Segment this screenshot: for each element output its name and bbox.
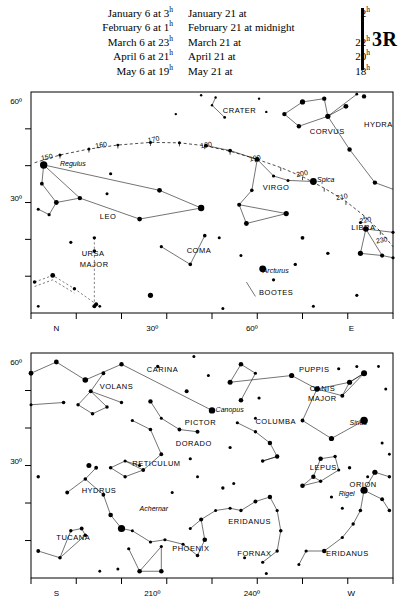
y-axis-tick-label: 60º [10, 358, 22, 367]
star-dot [178, 141, 181, 144]
star-dot [50, 273, 55, 278]
star-dot [94, 302, 98, 306]
constellation-label: HYDRA [364, 120, 393, 129]
constellation-label: VIRGO [263, 183, 290, 192]
panel-frame [31, 353, 393, 578]
star-dot [391, 231, 394, 234]
date-column-1: January 6 at 3h February 6 at 1h March 6… [38, 6, 173, 78]
date-row: April 6 at 21h [38, 49, 173, 63]
star-dot [83, 377, 89, 383]
star-dot [209, 407, 215, 413]
southern-sky-panel: S210º240ºW60º30ºCARINAVOLANSPUPPISCANISM… [0, 345, 405, 616]
constellation-label: DORADO [176, 439, 212, 448]
star-dot [347, 147, 351, 151]
star-dot [258, 97, 260, 99]
star-dot [137, 569, 142, 574]
star-dot [326, 252, 329, 255]
star-dot [221, 486, 224, 489]
star-dot [341, 536, 344, 539]
star-dot [189, 457, 192, 460]
star-dot [203, 234, 207, 238]
y-axis-tick-label: 30º [10, 457, 22, 466]
star-dot [253, 500, 257, 504]
hour-superscript: h [169, 5, 173, 14]
y-axis-tick-label: 30º [10, 194, 22, 203]
star-dot [93, 236, 96, 239]
star-dot [30, 403, 33, 406]
star-dot [257, 396, 260, 399]
star-dot [381, 442, 384, 445]
constellation-label: HYDRUS [82, 486, 117, 495]
y-axis-tick-label: 60º [10, 97, 22, 106]
star-dot [351, 522, 354, 525]
star-dot [65, 491, 69, 495]
star-dot [157, 188, 162, 193]
star-dot [73, 287, 76, 290]
star-dot [366, 475, 369, 478]
star-dot [261, 459, 265, 463]
date-row: May 21 at18h [188, 64, 378, 78]
star-dot [214, 96, 216, 98]
x-axis-tick-label: 240º [244, 589, 260, 598]
star-dot [58, 556, 62, 560]
star-dot [33, 280, 37, 284]
star-dot [333, 455, 336, 458]
constellation-label: CARINA [147, 365, 178, 374]
star-dot [141, 468, 145, 472]
star-dot [131, 529, 134, 532]
southern-sky-svg: S210º240ºW60º30ºCARINAVOLANSPUPPISCANISM… [0, 345, 405, 616]
date-row: February 6 at 1h [38, 20, 173, 34]
star-dot [58, 153, 61, 156]
star-dot [54, 360, 59, 365]
star-dot [337, 367, 340, 370]
plate-id-label: 3R [372, 28, 397, 51]
star-dot [254, 372, 257, 375]
star-dot [236, 421, 239, 424]
panel-frame [31, 92, 393, 313]
date-row: April 21 at20h [188, 49, 378, 63]
star-dot [207, 374, 210, 377]
star-dot [305, 549, 308, 552]
star-dot [237, 203, 241, 207]
star-dot [377, 365, 380, 368]
star-dot [98, 570, 101, 573]
star-dot [275, 454, 279, 458]
star-name-label: Regulus [60, 160, 86, 168]
star-dot [228, 380, 233, 385]
hour-superscript: h [366, 49, 370, 58]
constellation-label: ORION [350, 480, 377, 489]
constellation-label: VOLANS [100, 382, 133, 391]
star-dot [341, 507, 344, 510]
star-dot [340, 394, 344, 398]
date-row: January 6 at 3h [38, 6, 173, 20]
star-dot [94, 466, 98, 470]
star-dot [120, 401, 123, 404]
star-dot [198, 205, 204, 211]
northern-sky-svg: N30º60ºE60º30º15016017018019020021022023… [0, 84, 405, 334]
star-dot [388, 475, 391, 478]
star-dot [109, 172, 112, 175]
star-name-label: Sirius [350, 419, 368, 426]
star-dot [388, 509, 392, 513]
star-dot [265, 111, 267, 113]
star-dot [229, 507, 232, 510]
star-dot [119, 362, 123, 366]
constellation-label: CANIS [310, 384, 335, 393]
hour-superscript: h [366, 34, 370, 43]
star-dot [239, 254, 242, 257]
star-dot [149, 540, 152, 543]
star-dot [163, 538, 166, 541]
constellation-label: RETICULUM [132, 459, 180, 468]
x-axis-tick-label: 30º [146, 324, 158, 333]
star-dot [29, 371, 34, 376]
star-dot [301, 419, 305, 423]
star-dot [289, 373, 294, 378]
star-dot [223, 116, 226, 119]
star-dot [137, 217, 142, 222]
star-dot [131, 419, 134, 422]
star-dot [127, 547, 130, 550]
star-dot [337, 468, 340, 471]
hour-superscript: h [366, 5, 370, 14]
star-dot [106, 192, 109, 195]
date-row: May 6 at 19h [38, 64, 173, 78]
